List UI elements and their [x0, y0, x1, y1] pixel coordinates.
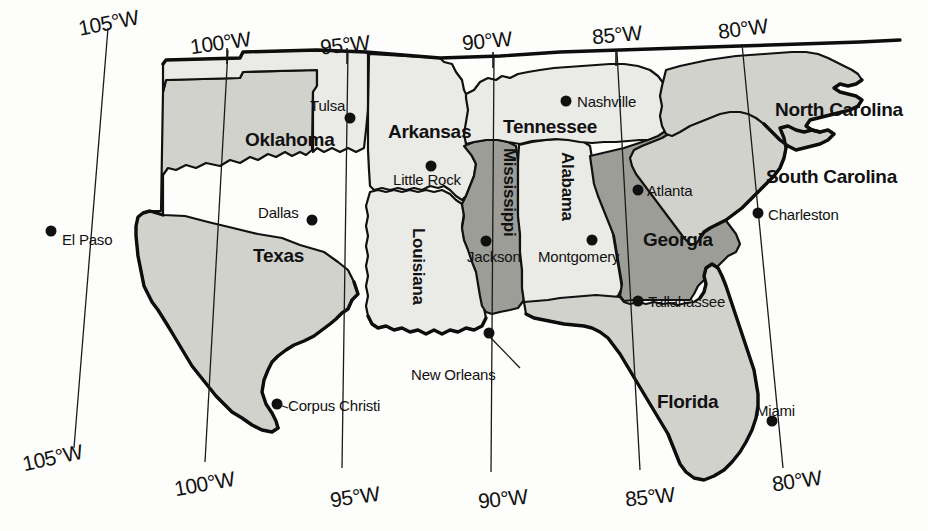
city-dot-tulsa — [345, 113, 356, 124]
city-dot-el-paso — [46, 226, 57, 237]
city-dot-miami — [767, 416, 778, 427]
map-graphics — [0, 0, 928, 531]
city-dot-tallahassee — [633, 296, 644, 307]
city-dot-charleston — [753, 208, 764, 219]
leader-new-orleans — [489, 336, 520, 368]
city-dot-nashville — [561, 96, 572, 107]
city-dot-dallas — [307, 215, 318, 226]
city-dot-atlanta — [633, 185, 644, 196]
meridian-105w — [74, 28, 108, 448]
map-canvas: 105°W 100°W 95°W 90°W 85°W 80°W 105°W 10… — [0, 0, 928, 531]
city-dot-jackson — [481, 236, 492, 247]
city-dot-little-rock — [426, 161, 437, 172]
state-shape-arkansas — [368, 54, 476, 200]
city-dot-montgomery — [587, 235, 598, 246]
